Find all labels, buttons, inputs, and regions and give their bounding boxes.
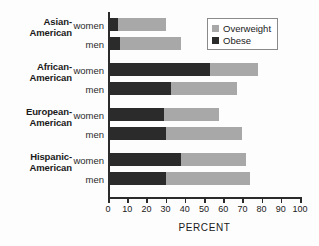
stacked-bar-chart: Asian-AmericanAfrican-AmericanEuropean-A… <box>0 0 319 246</box>
bar-segment-obese <box>108 18 118 31</box>
chart-legend: Overweight Obese <box>207 18 278 50</box>
bar-segment-obese <box>108 153 181 166</box>
bar-segment-overweight <box>166 172 250 185</box>
sex-label-men: men <box>62 129 104 140</box>
x-tick <box>300 197 302 203</box>
bar-segment-obese <box>108 108 164 121</box>
bar-men <box>108 37 181 50</box>
bar-men <box>108 127 242 140</box>
legend-item-overweight: Overweight <box>212 22 271 34</box>
bar-segment-overweight <box>166 127 243 140</box>
legend-item-obese: Obese <box>212 34 271 46</box>
x-tick <box>242 197 244 203</box>
bar-segment-obese <box>108 82 171 95</box>
x-tick <box>223 197 225 203</box>
x-tick <box>281 197 283 203</box>
x-tick <box>185 197 187 203</box>
bar-segment-obese <box>108 37 120 50</box>
bar-women <box>108 18 166 31</box>
x-tick <box>204 197 206 203</box>
sex-label-women: women <box>62 65 104 76</box>
bar-women <box>108 153 246 166</box>
sex-label-women: women <box>62 110 104 121</box>
bar-men <box>108 82 237 95</box>
bar-women <box>108 63 258 76</box>
x-tick <box>166 197 168 203</box>
bar-women <box>108 108 219 121</box>
legend-swatch-obese-icon <box>212 37 219 44</box>
sex-label-men: men <box>62 84 104 95</box>
bar-men <box>108 172 250 185</box>
legend-label-obese: Obese <box>223 35 251 46</box>
bar-segment-overweight <box>120 37 181 50</box>
bar-segment-overweight <box>210 63 258 76</box>
legend-swatch-overweight-icon <box>212 25 219 32</box>
bar-segment-overweight <box>171 82 236 95</box>
sex-label-men: men <box>62 39 104 50</box>
x-tick-label: 100 <box>289 204 311 214</box>
x-tick <box>127 197 129 203</box>
bar-segment-obese <box>108 127 166 140</box>
bar-segment-overweight <box>181 153 246 166</box>
bar-segment-obese <box>108 172 166 185</box>
bar-segment-obese <box>108 63 210 76</box>
x-tick <box>146 197 148 203</box>
bar-segment-overweight <box>164 108 220 121</box>
sex-label-women: women <box>62 155 104 166</box>
x-tick <box>262 197 264 203</box>
x-tick <box>108 197 110 203</box>
bar-segment-overweight <box>118 18 166 31</box>
sex-label-women: women <box>62 20 104 31</box>
sex-label-men: men <box>62 174 104 185</box>
x-axis-title: PERCENT <box>108 222 301 233</box>
legend-label-overweight: Overweight <box>223 23 271 34</box>
